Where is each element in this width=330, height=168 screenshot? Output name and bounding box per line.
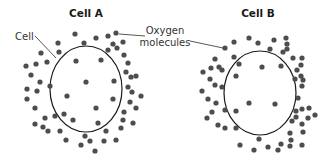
oxygen-molecule-inside	[111, 78, 116, 83]
oxygen-molecule-outside	[295, 95, 300, 100]
oxygen-molecule-outside	[222, 125, 227, 130]
oxygen-molecule-outside	[305, 115, 310, 120]
oxygen-molecule-inside	[64, 93, 69, 98]
oxygen-molecule-outside	[306, 105, 311, 110]
oxygen-molecule-inside	[233, 73, 238, 78]
oxygen-molecule-outside	[212, 82, 217, 87]
oxygen-molecule-outside	[127, 99, 132, 104]
oxygen-molecule-outside	[290, 55, 295, 60]
oxygen-label-line1: Oxygen	[146, 25, 185, 36]
oxygen-molecule-inside	[110, 96, 115, 101]
oxygen-molecule-outside	[33, 61, 38, 66]
oxygen-molecule-outside	[34, 88, 39, 93]
oxygen-molecule-outside	[278, 141, 283, 146]
oxygen-molecule-outside	[87, 138, 92, 143]
oxygen-molecule-outside	[209, 109, 214, 114]
oxygen-molecule-outside	[57, 128, 62, 133]
oxygen-molecule-outside	[271, 37, 276, 42]
oxygen-molecule-outside	[219, 67, 224, 72]
oxygen-molecule-outside	[28, 72, 33, 77]
oxygen-diffusion-diagram: Cell A Cell B Cell Oxygen molecules	[0, 0, 330, 168]
oxygen-molecule-outside	[120, 117, 125, 122]
oxygen-molecule-outside	[299, 106, 304, 111]
oxygen-molecule-outside	[288, 137, 293, 142]
oxygen-molecule-outside	[38, 50, 43, 55]
oxygen-molecule-outside	[255, 40, 260, 45]
oxygen-molecule-outside	[287, 143, 292, 148]
oxygen-molecule-outside	[32, 105, 37, 110]
oxygen-molecule-inside	[93, 105, 98, 110]
cell-label: Cell	[15, 31, 34, 42]
oxygen-molecule-outside	[61, 111, 66, 116]
oxygen-molecule-outside	[133, 105, 138, 110]
oxygen-molecule-outside	[299, 121, 304, 126]
oxygen-molecule-outside	[284, 46, 289, 51]
oxygen-molecule-outside	[200, 69, 205, 74]
oxygen-molecule-outside	[105, 47, 110, 52]
oxygen-molecule-outside	[92, 148, 97, 153]
oxygen-molecule-outside	[32, 121, 37, 126]
oxygen-molecule-outside	[130, 120, 135, 125]
oxygen-molecule-outside	[299, 55, 304, 60]
oxygen-molecule-outside	[233, 125, 238, 130]
oxygen-molecule-outside	[113, 30, 118, 35]
oxygen-molecule-inside	[83, 79, 88, 84]
oxygen-molecule-outside	[265, 144, 270, 149]
oxygen-molecule-outside	[120, 39, 125, 44]
oxygen-molecule-outside	[293, 114, 298, 119]
oxygen-molecule-outside	[101, 138, 106, 143]
oxygen-molecule-outside	[300, 129, 305, 134]
oxygen-molecule-inside	[231, 54, 236, 59]
oxygen-molecule-outside	[121, 109, 126, 114]
oxygen-molecule-outside	[63, 137, 68, 142]
oxygen-molecule-inside	[278, 63, 283, 68]
oxygen-molecule-outside	[113, 137, 118, 142]
oxygen-molecule-outside	[103, 128, 108, 133]
oxygen-molecule-outside	[40, 124, 45, 129]
oxygen-molecule-outside	[118, 125, 123, 130]
oxygen-molecule-inside	[95, 120, 100, 125]
oxygen-molecule-inside	[70, 117, 75, 122]
oxygen-molecule-outside	[222, 107, 227, 112]
oxygen-molecule-outside	[215, 122, 220, 127]
oxygen-molecule-outside	[207, 76, 212, 81]
oxygen-molecule-outside	[78, 142, 83, 147]
oxygen-molecule-outside	[275, 147, 280, 152]
cell-a-title: Cell A	[69, 7, 104, 19]
oxygen-molecule-outside	[133, 73, 138, 78]
oxygen-molecule-outside	[114, 45, 119, 50]
oxygen-molecule-outside	[110, 41, 115, 46]
oxygen-molecule-outside	[222, 45, 227, 50]
oxygen-molecule-outside	[123, 69, 128, 74]
oxygen-molecule-outside	[236, 61, 241, 66]
oxygen-molecule-outside	[219, 84, 224, 89]
oxygen-molecule-outside	[52, 113, 57, 118]
oxygen-molecule-inside	[73, 58, 78, 63]
oxygen-molecule-outside	[42, 115, 47, 120]
oxygen-molecule-outside	[312, 112, 317, 117]
oxygen-molecule-outside	[138, 93, 143, 98]
oxygen-molecule-inside	[259, 64, 264, 69]
oxygen-molecule-outside	[298, 62, 303, 67]
oxygen-molecule-outside	[233, 108, 238, 113]
oxygen-molecule-outside	[213, 100, 218, 105]
oxygen-molecule-outside	[72, 31, 77, 36]
oxygen-molecule-outside	[23, 63, 28, 68]
oxygen-molecule-outside	[251, 147, 256, 152]
oxygen-molecule-outside	[37, 79, 42, 84]
oxygen-molecule-outside	[299, 83, 304, 88]
oxygen-molecule-outside	[125, 60, 130, 65]
oxygen-molecule-outside	[199, 88, 204, 93]
oxygen-molecule-outside	[81, 40, 86, 45]
oxygen-molecule-outside	[284, 41, 289, 46]
oxygen-molecule-outside	[24, 96, 29, 101]
oxygen-molecule-outside	[45, 128, 50, 133]
oxygen-molecule-outside	[125, 84, 130, 89]
oxygen-molecule-outside	[129, 89, 134, 94]
oxygen-molecule-outside	[47, 83, 52, 88]
oxygen-molecule-outside	[246, 35, 251, 40]
oxygen-molecule-outside	[300, 77, 305, 82]
cell-b-title: Cell B	[241, 7, 275, 19]
oxygen-molecule-outside	[287, 130, 292, 135]
oxygen-molecule-outside	[231, 39, 236, 44]
